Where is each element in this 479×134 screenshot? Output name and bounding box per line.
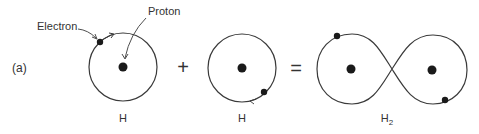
electron-pointer [78, 29, 96, 38]
atom-label: H [238, 112, 246, 124]
electron-dot [334, 33, 340, 39]
hydrogen-molecule-diagram: (a) Electron Proton H + H = H2 [0, 0, 479, 134]
hydrogen-atom-1: Electron Proton H [37, 5, 180, 124]
panel-label: (a) [12, 61, 27, 75]
atom-label: H [119, 112, 127, 124]
equals-operator: = [290, 57, 302, 79]
electron-dot [261, 89, 267, 95]
plus-operator: + [177, 56, 189, 78]
proton-dot [238, 64, 247, 73]
hydrogen-molecule: H2 [317, 33, 467, 127]
electron-dot [442, 97, 448, 103]
proton-pointer [125, 18, 146, 58]
hydrogen-atom-2: H [208, 34, 276, 124]
molecule-label: H2 [381, 112, 394, 127]
proton-dot [347, 65, 356, 74]
proton-dot [428, 66, 437, 75]
proton-dot [119, 63, 128, 72]
molecular-orbit [317, 34, 467, 104]
arrowhead-icon [250, 99, 256, 104]
electron-label: Electron [37, 20, 77, 32]
proton-label: Proton [148, 5, 180, 17]
